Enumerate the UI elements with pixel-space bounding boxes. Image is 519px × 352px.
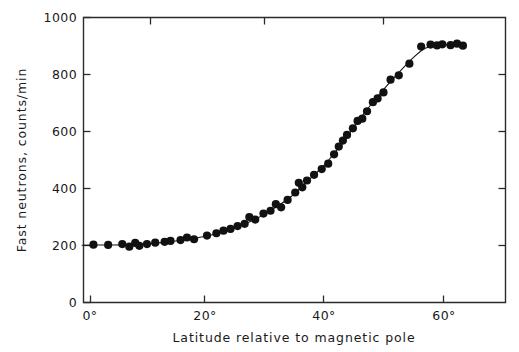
data-point (183, 233, 191, 241)
y-tick-label-400: 400 (52, 181, 77, 196)
data-point (203, 231, 211, 239)
data-point (298, 183, 306, 191)
data-point (166, 237, 174, 245)
figure-page: 1000 800 600 400 200 0 0° 20° 40° 60° La… (0, 0, 519, 352)
data-point (118, 240, 126, 248)
data-point (190, 235, 198, 243)
data-point (395, 71, 403, 79)
data-point (379, 88, 387, 96)
x-axis-title: Latitude relative to magnetic pole (172, 330, 415, 345)
data-point (343, 131, 351, 139)
data-point (266, 207, 274, 215)
data-points (89, 40, 467, 251)
y-tick-label-1000: 1000 (44, 10, 77, 25)
data-point (324, 160, 332, 168)
y-tick-label-200: 200 (52, 238, 77, 253)
data-point (283, 196, 291, 204)
data-point (330, 150, 338, 158)
data-point (363, 107, 371, 115)
fitted-curve (82, 45, 464, 246)
data-point (233, 222, 241, 230)
y-axis-ticks-right (499, 75, 506, 246)
data-point (349, 124, 357, 132)
data-point (219, 227, 227, 235)
neutron-latitude-chart: 1000 800 600 400 200 0 0° 20° 40° 60° La… (0, 0, 519, 352)
x-tick-label-60: 60° (432, 308, 455, 323)
plot-frame (84, 18, 506, 303)
y-tick-label-800: 800 (52, 67, 77, 82)
data-point (318, 165, 326, 173)
data-point (241, 220, 249, 228)
data-point (226, 225, 234, 233)
data-point (405, 60, 413, 68)
data-point (310, 171, 318, 179)
data-point (277, 203, 285, 211)
data-point (251, 215, 259, 223)
x-axis-ticks (91, 296, 444, 303)
data-point (459, 42, 467, 50)
y-tick-label-600: 600 (52, 124, 77, 139)
data-point (386, 76, 394, 84)
x-tick-label-20: 20° (193, 308, 216, 323)
y-tick-label-0: 0 (69, 295, 77, 310)
data-point (291, 188, 299, 196)
x-tick-label-0: 0° (82, 308, 97, 323)
data-point (438, 40, 446, 48)
data-point (374, 94, 382, 102)
data-point (358, 115, 366, 123)
data-point (259, 209, 267, 217)
y-axis-title: Fast neutrons, counts/min (14, 68, 29, 252)
data-point (104, 241, 112, 249)
data-point (143, 240, 151, 248)
y-axis-ticks (84, 18, 91, 303)
data-point (135, 242, 143, 250)
x-axis-ticks-top (151, 18, 384, 25)
data-point (212, 229, 220, 237)
data-point (89, 241, 97, 249)
x-tick-label-40: 40° (312, 308, 335, 323)
data-point (151, 239, 159, 247)
data-point (417, 42, 425, 50)
data-point (303, 176, 311, 184)
